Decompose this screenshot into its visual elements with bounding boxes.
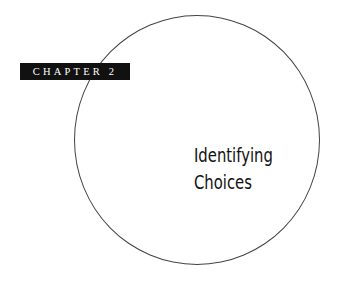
- decorative-circle: [74, 15, 320, 265]
- chapter-title-line-1: Identifying: [194, 142, 273, 169]
- chapter-title: Identifying Choices: [194, 142, 273, 196]
- chapter-title-line-2: Choices: [194, 169, 273, 196]
- chapter-banner: CHAPTER 2: [20, 63, 130, 80]
